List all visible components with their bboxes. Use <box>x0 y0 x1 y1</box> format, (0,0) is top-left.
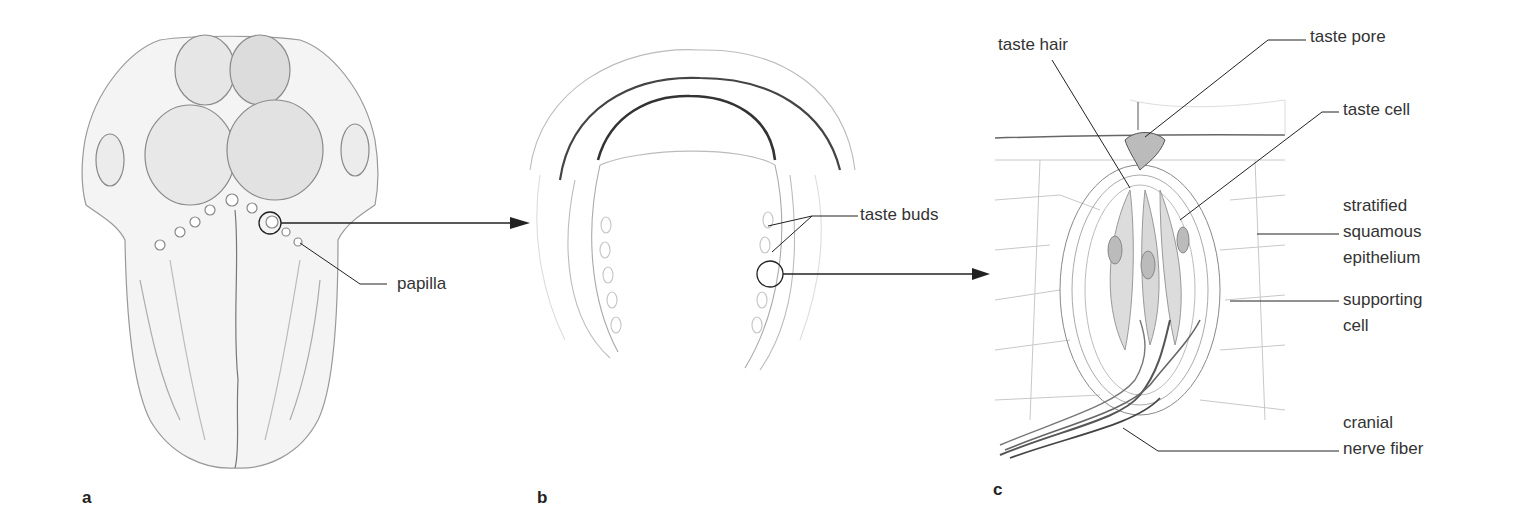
arrowhead-a-to-b <box>510 217 530 229</box>
taste-bud-highlight-circle <box>757 261 783 287</box>
taste-buds-leader-line-2 <box>772 216 812 252</box>
panel-letter-a: a <box>82 488 91 508</box>
label-taste-buds: taste buds <box>860 202 938 228</box>
label-epithelium: epithelium <box>1343 245 1421 271</box>
label-cell: cell <box>1343 313 1369 339</box>
taste-cell-leader-line <box>1180 112 1339 220</box>
label-supporting: supporting <box>1343 287 1422 313</box>
taste-bud-illustration <box>995 100 1285 458</box>
label-taste-hair: taste hair <box>998 32 1068 58</box>
cranial-nerve-leader-line <box>1123 428 1339 451</box>
label-nerve-fiber: nerve fiber <box>1343 436 1423 462</box>
label-stratified: stratified <box>1343 193 1407 219</box>
arrowhead-b-to-c <box>972 268 990 280</box>
label-papilla: papilla <box>397 271 446 297</box>
label-taste-cell: taste cell <box>1343 97 1410 123</box>
taste-pore-leader-line <box>1145 40 1306 137</box>
papilla-section-illustration <box>530 50 855 370</box>
figure-canvas <box>0 0 1519 525</box>
label-squamous: squamous <box>1343 219 1421 245</box>
tongue-illustration <box>82 35 378 468</box>
panel-letter-c: c <box>993 480 1002 500</box>
panel-letter-b: b <box>537 488 547 508</box>
panel-c-leader-lines <box>1052 40 1339 451</box>
taste-hair-leader-line <box>1052 60 1130 188</box>
label-taste-pore: taste pore <box>1310 24 1386 50</box>
label-cranial: cranial <box>1343 410 1393 436</box>
